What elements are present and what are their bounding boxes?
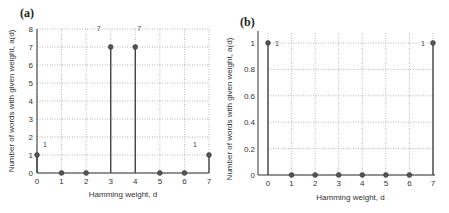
data-point [383,173,388,178]
x-tick-label: 1 [59,177,64,186]
grid [268,33,435,175]
y-tick-label: 0.4 [244,118,256,127]
x-tick-label: 3 [108,177,113,186]
chart-b: 0123456700.20.40.60.8111Hamming weight, … [225,15,436,202]
y-axis-label: Number of words with given weight, a(d) [225,37,234,180]
data-labels: 11 [275,40,425,47]
data-point [336,173,341,178]
y-tick-label: 3 [29,115,34,124]
data-label: 1 [421,40,425,47]
data-point [108,45,113,50]
x-tick-label: 5 [384,179,389,188]
stems [266,41,436,178]
x-tick-label: 7 [431,179,436,188]
data-point [84,171,89,176]
x-axis-label: Hamming weight, d [316,193,384,202]
panel-label: (a) [20,6,34,20]
grid [37,29,209,173]
y-tick-label: 8 [29,25,34,34]
chart-a: 012345670123456781771Hamming weight, dNu… [7,6,212,199]
data-label: 7 [137,25,141,32]
data-point [133,45,138,50]
y-tick-label: 0.6 [244,92,256,101]
x-tick-label: 0 [35,177,40,186]
x-tick-label: 1 [289,179,294,188]
x-tick-label: 3 [336,179,341,188]
x-tick-label: 4 [360,179,365,188]
x-tick-label: 2 [84,177,89,186]
y-tick-label: 0 [251,171,256,180]
x-tick-label: 4 [133,177,138,186]
y-tick-label: 0 [29,169,34,178]
data-labels: 1771 [43,25,197,148]
x-tick-label: 2 [313,179,318,188]
x-tick-labels: 01234567 [266,179,436,188]
x-tick-label: 6 [407,179,412,188]
y-tick-label: 0.8 [244,65,256,74]
data-label: 1 [193,141,197,148]
y-tick-label: 5 [29,79,34,88]
x-tick-label: 7 [207,177,212,186]
y-tick-label: 1 [29,151,34,160]
y-axis-label: Number of words with given weight, a(d) [7,29,16,172]
data-point [360,173,365,178]
data-point [207,153,212,158]
y-tick-label: 0.2 [244,145,256,154]
panel-label: (b) [240,15,255,29]
y-tick-label: 2 [29,133,34,142]
data-point [289,173,294,178]
y-tick-labels: 00.20.40.60.81 [244,39,256,180]
x-tick-label: 6 [182,177,187,186]
x-axis-label: Hamming weight, d [89,190,157,199]
data-point [431,41,436,46]
x-tick-label: 0 [266,179,271,188]
axes [258,31,435,175]
data-point [59,171,64,176]
data-point [266,41,271,46]
y-tick-labels: 012345678 [29,25,34,178]
data-label: 1 [275,40,279,47]
data-point [182,171,187,176]
x-tick-labels: 01234567 [35,177,212,186]
y-tick-label: 1 [251,39,256,48]
figure: 012345670123456781771Hamming weight, dNu… [0,0,449,213]
data-point [313,173,318,178]
data-point [35,153,40,158]
y-tick-label: 4 [29,97,34,106]
data-label: 7 [97,25,101,32]
data-label: 1 [43,141,47,148]
data-point [407,173,412,178]
x-tick-label: 5 [158,177,163,186]
y-tick-label: 7 [29,43,34,52]
y-tick-label: 6 [29,61,34,70]
data-point [157,171,162,176]
stems [35,45,212,176]
